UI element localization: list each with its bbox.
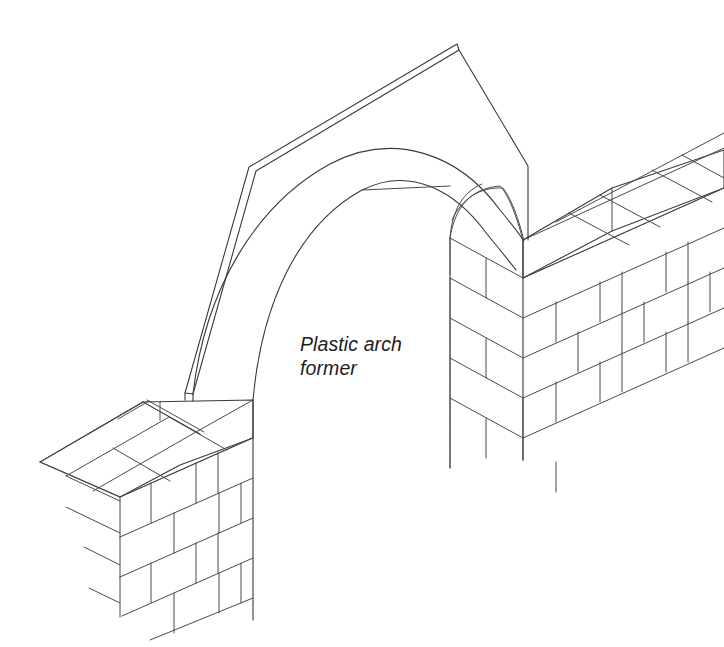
isometric-line-drawing: [0, 0, 724, 647]
right-pier-reveal-face: [450, 238, 523, 468]
arch-former-callout-label: Plastic arch former: [300, 332, 402, 380]
callout-line-1: Plastic arch: [300, 333, 402, 355]
left-pier-top-face: [40, 400, 253, 497]
left-pier: [40, 400, 253, 640]
callout-line-2: former: [300, 357, 357, 379]
illustration-canvas: Plastic arch former: [0, 0, 724, 647]
right-pier-top-face: [523, 150, 724, 278]
arch-former-soffit-inner: [450, 184, 482, 468]
arch-former-right-edge: [459, 50, 528, 240]
